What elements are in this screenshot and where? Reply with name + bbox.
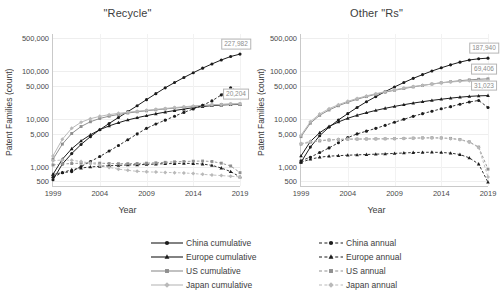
series-marker [126,138,129,141]
series-marker [173,115,176,118]
series-marker [486,57,489,60]
x-axis-tick-label: 2004 [339,189,356,198]
legend-item-cumulative-1[interactable]: Europe cumulative [150,250,256,264]
series-marker [440,107,443,110]
x-axis-tick-label: 2009 [138,189,155,198]
legend-swatch [150,251,184,263]
figure-legend: China cumulativeEurope cumulativeUS cumu… [0,236,501,303]
legend-item-annual-2[interactable]: US annual [318,264,401,278]
series-marker [117,144,120,147]
series-marker [318,151,321,154]
legend-column-cumulative: China cumulativeEurope cumulativeUS cumu… [150,236,256,292]
legend-swatch [318,237,344,249]
legend-item-label: Europe cumulative [186,253,256,262]
series-marker [89,120,92,123]
x-axis-tick-label: 2014 [185,189,202,198]
y-axis-tick-label: 1,000 [278,162,297,171]
y-axis-tick-label: 50,000 [26,81,49,90]
series-marker [98,155,101,158]
series-marker [201,172,205,176]
y-axis-tick-label: 500,000 [22,33,49,42]
series-marker [70,162,73,165]
value-callout: 31,023 [471,80,497,91]
figure-root: "Recycle" Patent Families (count) 5001,0… [0,0,501,303]
legend-swatch [150,237,184,249]
series-marker [51,176,54,179]
series-marker [412,77,415,80]
legend-item-annual-0[interactable]: China annual [318,236,401,250]
series-marker [421,112,424,115]
series-marker [164,161,167,164]
x-axis-tick-label: 2014 [433,189,450,198]
series-marker [52,164,55,167]
x-axis-label-left: Year [0,205,255,215]
legend-item-annual-1[interactable]: Europe annual [318,250,401,264]
series-marker [108,162,111,165]
series-marker [421,73,424,76]
y-axis-tick-label: 1,000 [30,162,49,171]
series-marker [211,160,214,163]
series-marker [154,122,157,125]
series-marker [458,61,461,64]
series-marker [164,86,167,89]
chart-panel-other-rs: Other "Rs" Patent Families (count) 5001,… [252,0,501,232]
legend-item-cumulative-3[interactable]: Japan cumulative [150,278,256,292]
series-marker [70,158,74,162]
series-marker [458,103,461,106]
series-layer [53,34,240,186]
x-axis-tick-label: 2009 [386,189,403,198]
y-axis-tick-label: 100,000 [22,67,49,76]
legend-swatch [150,279,184,291]
x-gridline [240,34,241,186]
series-marker [374,127,377,130]
x-axis-label-right: Year [252,205,501,215]
series-marker [192,160,195,163]
legend-item-cumulative-2[interactable]: US cumulative [150,264,256,278]
series-marker [117,162,120,165]
series-marker [80,143,83,146]
series-marker [126,162,129,165]
plot-area-other-rs: 5001,0005,00010,00050,000100,000500,0001… [300,34,488,187]
series-marker [219,174,223,178]
legend-swatch [150,265,184,277]
series-marker [145,170,149,174]
series-marker [70,152,73,155]
series-marker [192,71,195,74]
series-marker [365,100,368,103]
y-axis-label-left: Patent Families (count) [4,52,18,172]
legend-item-label: Japan cumulative [186,281,252,290]
legend-item-annual-3[interactable]: Japan annual [318,278,401,292]
y-axis-tick-label: 50,000 [274,81,297,90]
legend-item-label: China cumulative [186,239,251,248]
legend-swatch [318,279,344,291]
series-marker [486,106,489,109]
value-callout: 69,406 [471,63,497,74]
series-marker [173,160,176,163]
series-marker [201,67,204,70]
series-marker [220,58,223,61]
legend-item-cumulative-0[interactable]: China cumulative [150,236,256,250]
series-marker [365,130,368,133]
series-marker [210,62,213,65]
legend-swatch [318,251,344,263]
series-marker [210,173,214,177]
series-marker [145,98,148,101]
plot-area-recycle: 5001,0005,00010,00050,000100,000500,0001… [52,34,240,187]
legend-swatch [318,265,344,277]
y-axis-tick-label: 500,000 [270,33,297,42]
series-marker [412,115,415,118]
series-marker [88,117,92,121]
series-marker [356,132,359,135]
y-axis-tick-label: 10,000 [274,115,297,124]
series-marker [116,167,120,171]
legend-item-label: Europe annual [346,253,401,262]
legend-column-annual: China annualEurope annualUS annualJapan … [318,236,401,292]
legend-item-label: Japan annual [346,281,397,290]
series-marker [136,162,139,165]
panel-title-recycle: "Recycle" [0,7,255,19]
series-marker [80,125,83,128]
panel-title-other-rs: Other "Rs" [252,7,501,19]
series-marker [402,81,405,84]
series-marker [328,146,331,149]
series-marker [191,171,195,175]
